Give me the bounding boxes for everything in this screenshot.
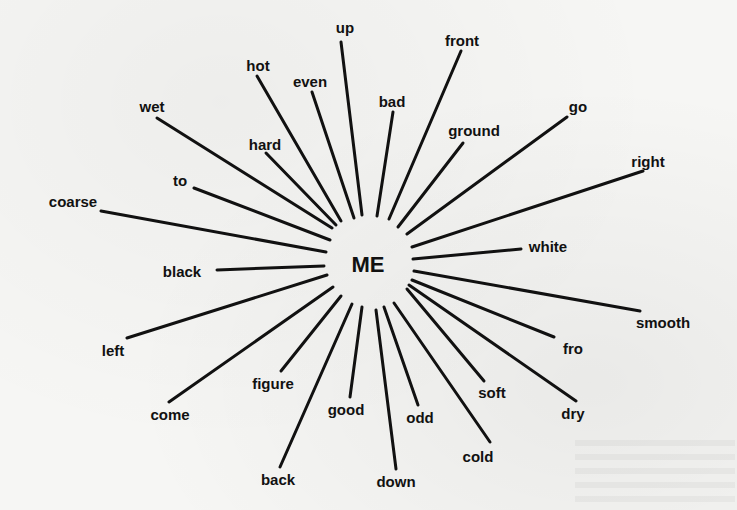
connector-line-odd: [384, 307, 418, 405]
word-node-coarse: coarse: [49, 194, 97, 209]
word-node-wet: wet: [139, 99, 164, 114]
word-node-hard: hard: [249, 137, 282, 152]
connector-line-ground: [398, 143, 463, 227]
connector-line-good: [350, 307, 362, 397]
word-node-black: black: [163, 264, 201, 279]
word-node-odd: odd: [406, 410, 434, 425]
word-node-right: right: [631, 154, 664, 169]
word-node-good: good: [328, 402, 365, 417]
connector-line-bad: [377, 112, 393, 216]
word-node-dry: dry: [561, 406, 584, 421]
connector-line-black: [217, 266, 324, 270]
word-node-cold: cold: [463, 449, 494, 464]
word-node-back: back: [261, 472, 295, 487]
connector-line-right: [412, 171, 643, 247]
connector-line-figure: [281, 296, 341, 371]
center-node-me: ME: [352, 254, 385, 276]
word-node-go: go: [569, 99, 587, 114]
connector-line-hard: [266, 153, 336, 225]
word-node-figure: figure: [252, 376, 294, 391]
word-association-diagram: upfronthotevenbadgowetgroundhardrighttoc…: [0, 0, 737, 510]
word-node-left: left: [102, 343, 125, 358]
word-node-soft: soft: [478, 385, 506, 400]
connector-line-come: [169, 287, 333, 402]
connector-line-white: [413, 249, 521, 259]
word-node-white: white: [529, 239, 567, 254]
word-node-even: even: [293, 74, 327, 89]
word-node-up: up: [336, 20, 354, 35]
word-node-bad: bad: [379, 94, 406, 109]
word-node-hot: hot: [246, 58, 269, 73]
word-node-fro: fro: [563, 341, 583, 356]
connector-line-coarse: [101, 211, 326, 252]
connector-line-left: [127, 275, 327, 338]
word-node-front: front: [445, 33, 479, 48]
connector-line-smooth: [414, 271, 640, 311]
word-node-come: come: [150, 407, 189, 422]
word-node-smooth: smooth: [636, 315, 690, 330]
word-node-to: to: [173, 173, 187, 188]
connector-line-fro: [412, 280, 554, 337]
word-node-down: down: [376, 474, 415, 489]
connector-line-even: [312, 92, 354, 218]
word-node-ground: ground: [448, 123, 500, 138]
